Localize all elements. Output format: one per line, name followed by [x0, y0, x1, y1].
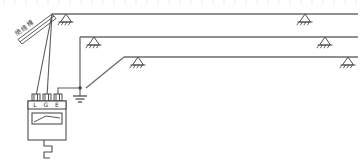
- support-left-3: [130, 57, 146, 68]
- support-right-2: [317, 37, 333, 48]
- terminal-post-L[interactable]: [32, 94, 40, 101]
- scale-window: [32, 113, 62, 124]
- conductor-group: [52, 14, 358, 57]
- riser-level-3-diagonal: [86, 57, 124, 88]
- support-right-1: [297, 14, 313, 25]
- terminal-post-G[interactable]: [43, 94, 51, 101]
- support-left-2: [86, 37, 102, 48]
- support-right-3: [340, 57, 356, 68]
- terminal-label-E: E: [55, 101, 59, 108]
- terminal-post-E[interactable]: [54, 94, 62, 101]
- terminal-posts[interactable]: [32, 94, 62, 101]
- support-left-1: [58, 14, 74, 25]
- megohmmeter-instrument[interactable]: L G E: [28, 94, 66, 158]
- terminal-label-L: L: [33, 101, 37, 108]
- support-symbols: [58, 14, 356, 68]
- diagram-root: L G E 绝缘棒: [0, 0, 364, 164]
- terminal-label-G: G: [44, 101, 49, 108]
- earth-ground-symbol: [73, 86, 87, 102]
- diagram-canvas: L G E: [0, 0, 364, 164]
- crank-handle[interactable]: [44, 140, 52, 158]
